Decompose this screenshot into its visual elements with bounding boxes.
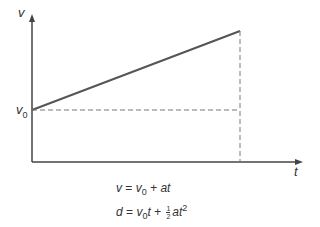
y-axis-label: v	[18, 5, 25, 20]
equation-displacement: d = v0t + 12at2	[116, 203, 187, 221]
x-axis-label: t	[294, 164, 298, 179]
equation-velocity: v = v0 + at	[116, 181, 170, 197]
v0-label: v0	[16, 102, 28, 120]
y-axis-arrow-icon	[29, 14, 35, 22]
fraction-half: 12	[166, 205, 170, 220]
velocity-line	[32, 31, 240, 110]
